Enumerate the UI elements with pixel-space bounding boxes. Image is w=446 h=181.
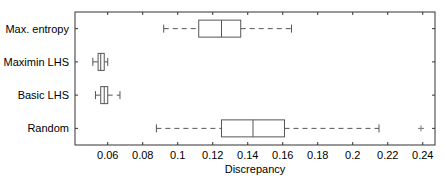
x-tick-label: 0.14	[237, 149, 258, 161]
box-random	[156, 120, 424, 137]
boxplot-chart: 0.060.080.10.120.140.160.180.20.220.24 M…	[0, 0, 446, 181]
category-label: Maximin LHS	[4, 56, 69, 68]
box-series	[93, 20, 424, 137]
box-max-entropy	[164, 20, 292, 37]
category-label: Basic LHS	[18, 89, 69, 101]
x-tick-label: 0.12	[202, 149, 223, 161]
box-basic-lhs	[95, 87, 120, 104]
box-maximin-lhs	[93, 53, 108, 70]
x-tick-label: 0.24	[412, 149, 433, 161]
y-axis-categories: Max. entropyMaximin LHSBasic LHSRandom	[4, 23, 435, 135]
x-tick-label: 0.22	[377, 149, 398, 161]
x-axis-title: Discrepancy	[225, 163, 286, 175]
x-tick-label: 0.08	[132, 149, 153, 161]
category-label: Max. entropy	[5, 23, 69, 35]
x-tick-label: 0.16	[272, 149, 293, 161]
x-tick-label: 0.18	[307, 149, 328, 161]
x-tick-label: 0.06	[97, 149, 118, 161]
iqr-box	[199, 20, 241, 37]
x-axis-ticks: 0.060.080.10.120.140.160.180.20.220.24	[97, 12, 433, 161]
x-tick-label: 0.2	[345, 149, 360, 161]
category-label: Random	[27, 122, 69, 134]
x-tick-label: 0.1	[170, 149, 185, 161]
